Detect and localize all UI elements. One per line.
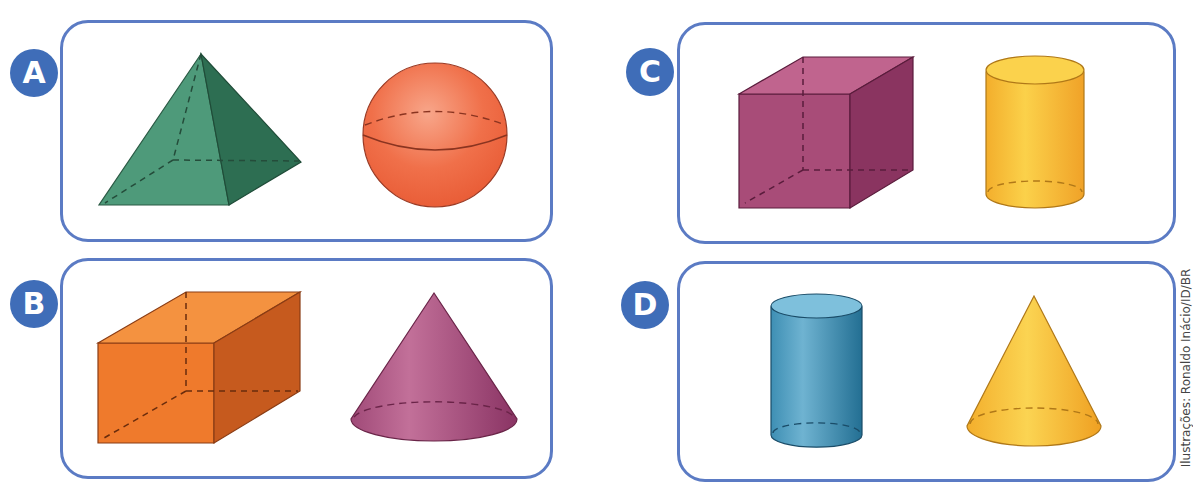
cone-yellow xyxy=(967,296,1101,446)
illustration-credit: Ilustrações: Ronaldo Inácio/ID/BR xyxy=(1179,269,1193,468)
cylinder-blue xyxy=(771,294,862,447)
cylinder-yellow xyxy=(986,56,1084,208)
cone-pink xyxy=(351,293,517,441)
rectangular-prism xyxy=(98,292,300,443)
cube xyxy=(739,57,913,208)
sphere xyxy=(363,63,507,207)
square-pyramid xyxy=(99,54,301,205)
